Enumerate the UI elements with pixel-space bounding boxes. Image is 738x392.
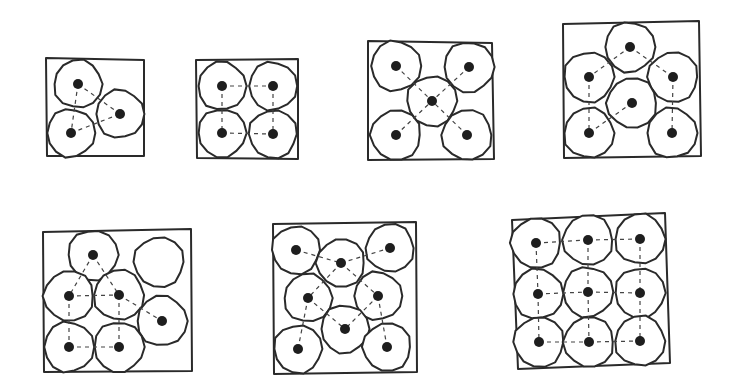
center-dot [64, 291, 74, 301]
center-dot [115, 109, 125, 119]
center-dot [635, 336, 645, 346]
center-dot [217, 128, 227, 138]
center-dot [382, 342, 392, 352]
center-dot [625, 42, 635, 52]
center-dot [385, 243, 395, 253]
center-dot [583, 235, 593, 245]
center-dot [217, 81, 227, 91]
packing-panel-n9 [510, 213, 670, 369]
center-dot [583, 287, 593, 297]
circle [134, 237, 184, 287]
center-dot [373, 291, 383, 301]
center-dot [584, 128, 594, 138]
center-dot [584, 72, 594, 82]
center-dot [534, 337, 544, 347]
center-dot [462, 130, 472, 140]
center-dot [584, 337, 594, 347]
packing-panel-n6 [563, 21, 701, 158]
center-dot [336, 258, 346, 268]
circle-packing-diagram [0, 0, 738, 392]
center-dot [635, 288, 645, 298]
packing-panel-n8 [272, 222, 417, 374]
center-dot [64, 342, 74, 352]
center-dot [303, 293, 313, 303]
packing-panel-n7 [43, 229, 192, 372]
center-dot [268, 129, 278, 139]
center-dot [73, 79, 83, 89]
center-dot [533, 289, 543, 299]
center-dot [427, 96, 437, 106]
center-dot [157, 316, 167, 326]
packing-panel-n5 [368, 41, 495, 161]
center-dot [293, 344, 303, 354]
center-dot [391, 61, 401, 71]
center-dot [635, 234, 645, 244]
center-dot [88, 250, 98, 260]
center-dot [668, 72, 678, 82]
center-dot [667, 128, 677, 138]
packing-panel-n3 [46, 58, 144, 158]
center-dot [391, 130, 401, 140]
center-dot [291, 245, 301, 255]
center-dot [464, 62, 474, 72]
center-dot [268, 81, 278, 91]
center-dot [66, 128, 76, 138]
center-dot [531, 238, 541, 248]
center-dot [627, 98, 637, 108]
center-dot [114, 290, 124, 300]
center-dot [114, 342, 124, 352]
packing-panel-n4 [196, 59, 298, 159]
center-dot [340, 324, 350, 334]
